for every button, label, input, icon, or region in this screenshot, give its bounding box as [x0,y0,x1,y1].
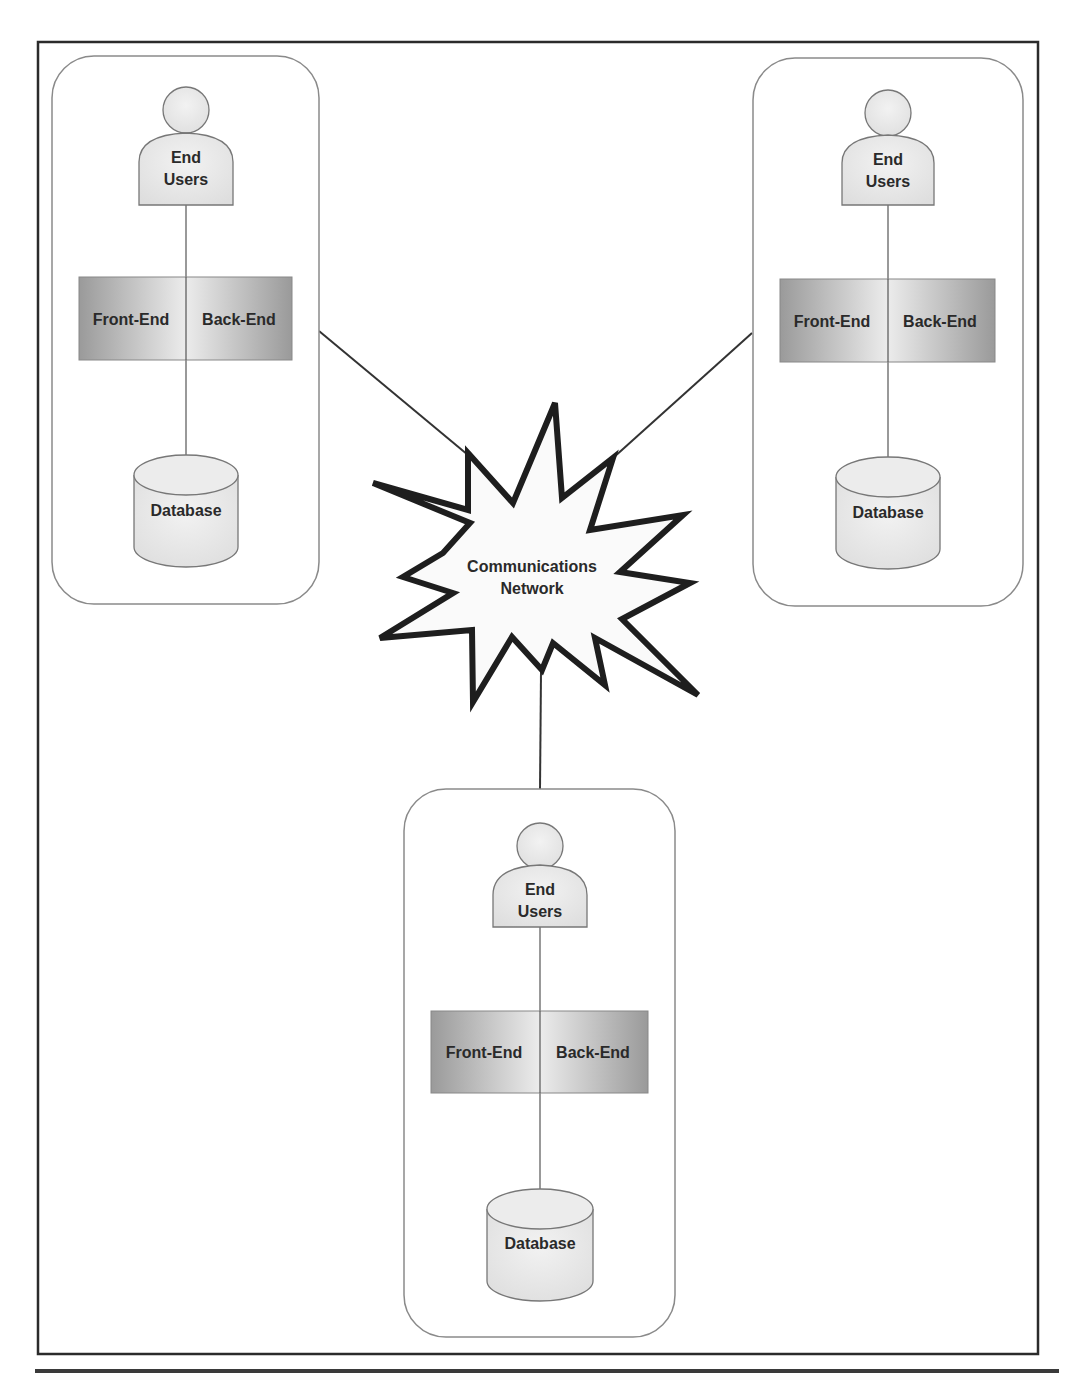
database-icon[interactable]: Database [836,457,940,569]
database-label: Database [150,502,221,519]
database-icon[interactable]: Database [134,455,238,567]
node-top-left: End Users Front-End Back-End Database [52,56,319,604]
end-users-label-line2: Users [164,171,209,188]
app-tier-box[interactable]: Front-End Back-End [780,279,995,362]
edge-top-left-to-hub [319,331,468,455]
database-icon[interactable]: Database [487,1189,593,1301]
end-users-label-line1: End [171,149,201,166]
edge-bottom-to-hub [540,672,541,790]
database-label: Database [504,1235,575,1252]
node-top-right: End Users Front-End Back-End Database [753,58,1023,606]
end-users-label-line2: Users [866,173,911,190]
hub-label-line1: Communications [467,558,597,575]
end-users-label-line1: End [873,151,903,168]
hub-label-line2: Network [500,580,563,597]
caption-divider [35,1369,1059,1373]
explosion-star-icon [373,403,698,702]
back-end-label: Back-End [556,1044,630,1061]
app-tier-box[interactable]: Front-End Back-End [79,277,292,360]
end-users-label-line2: Users [518,903,563,920]
figure-caption-clipped [35,1384,1059,1392]
front-end-label: Front-End [93,311,169,328]
back-end-label: Back-End [202,311,276,328]
front-end-label: Front-End [794,313,870,330]
database-label: Database [852,504,923,521]
app-tier-box[interactable]: Front-End Back-End [431,1011,648,1093]
node-bottom-center: End Users Front-End Back-End Database [404,789,675,1337]
end-users-label-line1: End [525,881,555,898]
communications-network-hub[interactable]: Communications Network [373,403,698,702]
back-end-label: Back-End [903,313,977,330]
network-diagram: End Users Front-End Back-End Database En… [0,0,1069,1392]
front-end-label: Front-End [446,1044,522,1061]
edge-top-right-to-hub [613,333,752,458]
